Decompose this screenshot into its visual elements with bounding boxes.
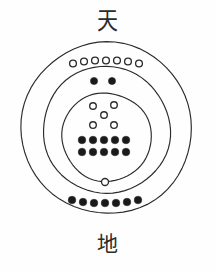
open-circle-marker <box>102 179 109 186</box>
filled-dot-marker <box>68 196 76 204</box>
inner-filled-dot-row-1 <box>78 136 130 144</box>
outer-filled-dot-arc <box>68 196 142 207</box>
filled-dot-marker <box>89 148 97 156</box>
filled-dot-marker <box>78 148 86 156</box>
open-circle-marker <box>70 60 77 67</box>
filled-dot-marker <box>79 198 87 206</box>
middle-filled-dot-pair <box>90 77 115 84</box>
lower-single-open-circle <box>102 179 109 186</box>
open-circle-marker <box>90 122 97 129</box>
filled-dot-marker <box>123 198 131 206</box>
open-circle-marker <box>136 60 143 67</box>
filled-dot-marker <box>100 148 108 156</box>
outer-open-circle-arc <box>70 57 143 67</box>
filled-dot-marker <box>111 136 119 144</box>
filled-dot-marker <box>100 136 108 144</box>
earth-glyph-label: 地 <box>0 234 215 255</box>
outer-ring <box>21 42 191 214</box>
filled-dot-marker <box>112 199 120 207</box>
open-circle-marker <box>92 57 99 64</box>
filled-dot-marker <box>122 148 130 156</box>
filled-dot-marker <box>122 136 130 144</box>
open-circle-marker <box>111 102 118 109</box>
filled-dot-marker <box>108 77 115 84</box>
open-circle-marker <box>125 58 132 65</box>
rings-group <box>21 42 191 214</box>
open-circle-marker <box>103 57 110 64</box>
open-circle-marker <box>111 122 118 129</box>
open-circle-marker <box>101 112 108 119</box>
filled-dot-marker <box>111 148 119 156</box>
filled-dot-marker <box>89 136 97 144</box>
open-circle-marker <box>81 58 88 65</box>
filled-dot-marker <box>90 199 98 207</box>
inner-filled-dot-row-2 <box>78 148 130 156</box>
filled-dot-marker <box>134 196 142 204</box>
markers-group <box>68 57 142 207</box>
open-circle-marker <box>90 103 97 110</box>
inner-open-circle-quincunx <box>90 102 118 129</box>
filled-dot-marker <box>78 136 86 144</box>
filled-dot-marker <box>101 199 109 207</box>
diagram-page: 天 地 <box>0 0 215 272</box>
open-circle-marker <box>114 57 121 64</box>
filled-dot-marker <box>90 77 97 84</box>
